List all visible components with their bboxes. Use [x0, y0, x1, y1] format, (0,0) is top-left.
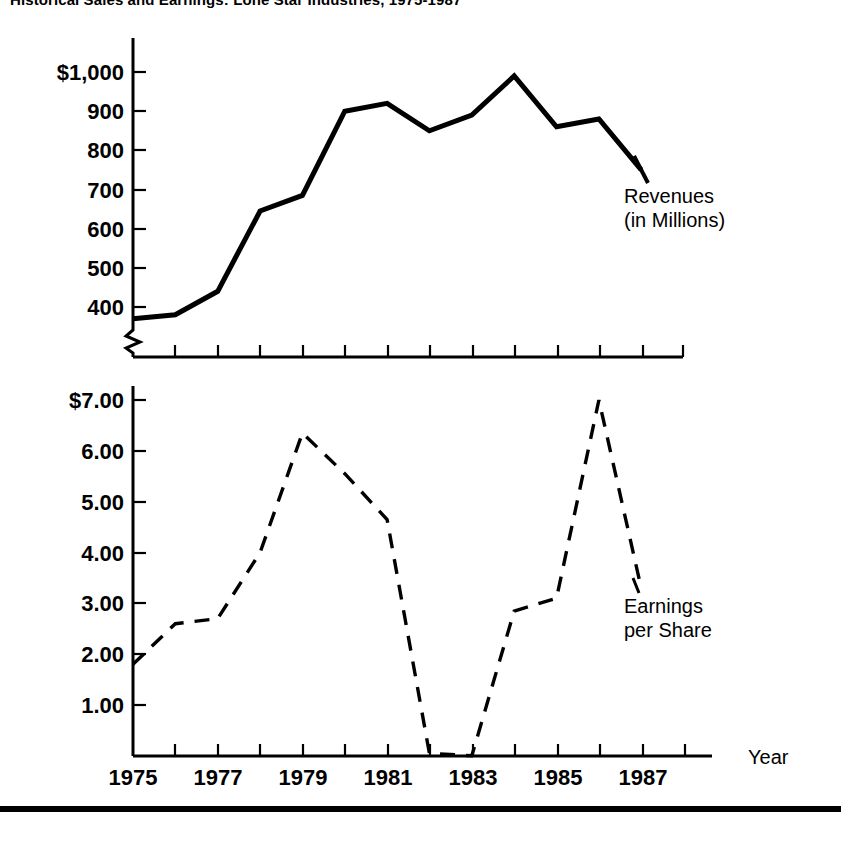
eps-annotation-line2: per Share	[624, 619, 712, 641]
revenue-leader-line	[634, 156, 648, 183]
eps-line-series	[133, 400, 641, 756]
eps-ytick-label: 3.00	[81, 591, 124, 616]
xtick-label: 1987	[619, 765, 668, 790]
eps-ytick-label: 6.00	[81, 439, 124, 464]
revenue-annotation-line2: (in Millions)	[624, 209, 725, 231]
dual-line-chart: $1,000 900 800 700 600 500 400	[0, 0, 841, 841]
xtick-label: 1977	[194, 765, 243, 790]
revenue-ytick-label: 500	[87, 256, 124, 281]
revenue-ytick-label: 700	[87, 178, 124, 203]
eps-annotation-line1: Earnings	[624, 595, 703, 617]
eps-leader-line	[633, 578, 639, 593]
xtick-label: 1985	[534, 765, 583, 790]
x-axis-name: Year	[748, 746, 789, 768]
revenue-ytick-label: 800	[87, 138, 124, 163]
eps-ytick-label: 2.00	[81, 642, 124, 667]
eps-ytick-label: $7.00	[69, 388, 124, 413]
revenue-y-axis	[126, 38, 140, 357]
revenue-ytick-label: 600	[87, 217, 124, 242]
xtick-label: 1979	[279, 765, 328, 790]
eps-ytick-label: 1.00	[81, 693, 124, 718]
x-axis-tick-labels: 1975 1977 1979 1981 1983 1985 1987	[109, 765, 668, 790]
xtick-label: 1983	[449, 765, 498, 790]
revenue-ytick-label: 900	[87, 99, 124, 124]
bottom-rule	[0, 806, 841, 812]
revenue-ytick-label: 400	[87, 295, 124, 320]
eps-ytick-label: 4.00	[81, 541, 124, 566]
panel-revenues: $1,000 900 800 700 600 500 400	[57, 38, 683, 357]
xtick-label: 1981	[364, 765, 413, 790]
revenue-x-ticks	[175, 345, 683, 357]
panel-earnings-per-share: $7.00 6.00 5.00 4.00 3.00 2.00 1.00	[69, 386, 712, 756]
revenue-y-ticks	[133, 72, 146, 307]
revenue-annotation-line1: Revenues	[624, 185, 714, 207]
xtick-label: 1975	[109, 765, 158, 790]
eps-ytick-label: 5.00	[81, 490, 124, 515]
revenue-line-series	[133, 76, 641, 319]
figure-container: Historical Sales and Earnings: Lone Star…	[0, 0, 841, 841]
revenue-ytick-label: $1,000	[57, 60, 124, 85]
